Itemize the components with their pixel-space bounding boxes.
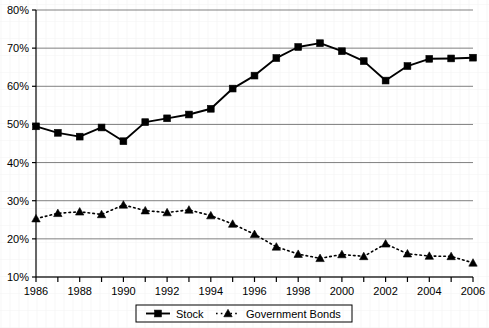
series-stock (33, 40, 477, 145)
data-point-square-marker (382, 77, 389, 84)
data-point-square-marker (76, 133, 83, 140)
data-point-triangle-marker (272, 243, 280, 250)
x-axis-tick-label: 2002 (373, 285, 397, 297)
data-point-square-marker (33, 123, 40, 130)
y-axis-tick-label: 80% (7, 4, 29, 16)
chart-legend: StockGovernment Bonds (136, 305, 352, 322)
data-point-triangle-marker (228, 220, 236, 227)
data-point-square-marker (404, 63, 411, 70)
data-point-square-marker (251, 72, 258, 79)
legend-label-stock: Stock (176, 308, 204, 320)
data-point-square-marker (339, 48, 346, 55)
data-point-square-marker (155, 310, 162, 317)
data-point-triangle-marker (469, 259, 477, 266)
data-point-triangle-marker (294, 250, 302, 257)
x-axis-tick-label: 1986 (24, 285, 48, 297)
chart-container: 80%70%60%50%40%30%20%10% 198619881990199… (0, 0, 489, 328)
x-axis-ticks (36, 277, 473, 282)
data-point-triangle-marker (207, 211, 215, 218)
x-axis-tick-label: 1990 (111, 285, 135, 297)
data-point-square-marker (470, 54, 477, 61)
data-point-triangle-marker (381, 240, 389, 247)
data-point-triangle-marker (32, 214, 40, 221)
x-axis-tick-label: 2004 (417, 285, 441, 297)
data-point-square-marker (186, 111, 193, 118)
y-axis-tick-label: 60% (7, 80, 29, 92)
x-axis-labels: 1986198819901992199419961998200020022004… (24, 285, 485, 297)
y-axis-tick-label: 10% (7, 271, 29, 283)
data-point-square-marker (164, 115, 171, 122)
data-point-square-marker (295, 44, 302, 51)
data-point-triangle-marker (360, 252, 368, 259)
data-point-square-marker (120, 138, 127, 145)
data-point-square-marker (54, 129, 61, 136)
y-axis-tick-label: 50% (7, 118, 29, 130)
data-point-triangle-marker (119, 201, 127, 208)
x-axis-tick-label: 2006 (461, 285, 485, 297)
data-point-triangle-marker (76, 208, 84, 215)
line-chart: 80%70%60%50%40%30%20%10% 198619881990199… (0, 0, 489, 328)
data-point-square-marker (360, 58, 367, 65)
data-point-triangle-marker (250, 230, 258, 237)
data-point-square-marker (448, 55, 455, 62)
data-point-square-marker (273, 55, 280, 62)
x-axis-tick-label: 1992 (155, 285, 179, 297)
data-point-square-marker (426, 55, 433, 62)
data-point-square-marker (317, 40, 324, 47)
data-point-square-marker (207, 105, 214, 112)
x-axis-tick-label: 1996 (242, 285, 266, 297)
data-point-square-marker (229, 85, 236, 92)
x-axis-tick-label: 1988 (67, 285, 91, 297)
y-axis-labels: 80%70%60%50%40%30%20%10% (7, 4, 29, 283)
x-axis-tick-label: 1998 (286, 285, 310, 297)
y-axis-tick-label: 40% (7, 157, 29, 169)
x-axis-tick-label: 1994 (199, 285, 223, 297)
data-point-triangle-marker (185, 206, 193, 213)
x-axis-tick-label: 2000 (330, 285, 354, 297)
data-point-square-marker (142, 119, 149, 126)
y-axis-tick-label: 30% (7, 195, 29, 207)
data-point-square-marker (98, 124, 105, 131)
legend-label-government-bonds: Government Bonds (246, 308, 341, 320)
series-government-bonds (32, 201, 477, 266)
y-axis-tick-label: 70% (7, 42, 29, 54)
y-axis-tick-label: 20% (7, 233, 29, 245)
